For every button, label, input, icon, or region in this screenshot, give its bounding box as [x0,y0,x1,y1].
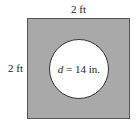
circle-cutout: d = 14 in. [49,39,109,99]
diameter-value: = 14 in. [63,63,100,75]
diameter-label: d = 14 in. [58,63,100,75]
left-side-label: 2 ft [8,62,23,74]
top-side-label: 2 ft [71,3,86,15]
